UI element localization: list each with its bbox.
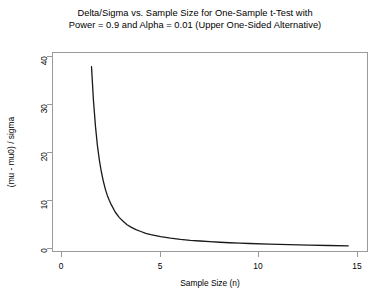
xtick-label-5: 5 [158, 261, 163, 271]
ytick-label-20: 20 [39, 152, 49, 161]
plot-area [52, 52, 368, 252]
ytick-label-40: 40 [39, 56, 49, 65]
curve-svg [52, 52, 368, 252]
chart-title-line-2: Power = 0.9 and Alpha = 0.01 (Upper One-… [0, 19, 390, 31]
xtick-label-10: 10 [253, 261, 262, 271]
xtick-label-0: 0 [59, 261, 64, 271]
chart-title-line-1: Delta/Sigma vs. Sample Size for One-Samp… [0, 7, 390, 19]
xtick-mark-15 [357, 252, 358, 257]
ytick-label-30: 30 [39, 104, 49, 113]
data-series-line [92, 67, 349, 246]
chart-title: Delta/Sigma vs. Sample Size for One-Samp… [0, 7, 390, 31]
xtick-mark-0 [61, 252, 62, 257]
xtick-mark-10 [258, 252, 259, 257]
ytick-label-10: 10 [39, 200, 49, 209]
xtick-label-15: 15 [352, 261, 361, 271]
x-axis-title: Sample Size (n) [52, 278, 368, 288]
chart-container: Delta/Sigma vs. Sample Size for One-Samp… [0, 0, 390, 307]
ytick-label-0: 0 [39, 248, 49, 253]
xtick-mark-5 [160, 252, 161, 257]
y-axis-title: (mu - mu0) / sigma [6, 117, 16, 187]
